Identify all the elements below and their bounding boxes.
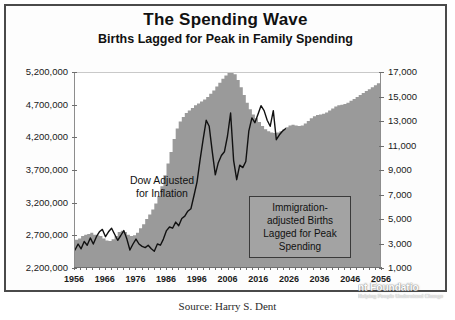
y-axis-left-tick: [72, 105, 77, 106]
x-axis-tick: [258, 267, 259, 270]
x-axis-tick: [277, 267, 278, 270]
y-axis-right-tick-label: 5,000: [388, 213, 436, 224]
x-axis-tick: [338, 267, 339, 270]
y-axis-left-tick-label: 2,700,000: [8, 229, 68, 240]
x-axis-tick: [289, 267, 290, 270]
y-axis-left-tick: [72, 170, 77, 171]
x-axis-tick: [381, 267, 382, 270]
x-axis-tick: [185, 267, 186, 270]
y-axis-left-tick: [72, 137, 77, 138]
y-axis-right-tick: [379, 121, 384, 122]
x-axis-tick: [86, 267, 87, 270]
x-axis-tick: [221, 267, 222, 270]
x-axis-tick: [172, 267, 173, 270]
y-axis-right-tick: [379, 195, 384, 196]
x-axis-tick: [240, 267, 241, 270]
x-axis-tick: [246, 267, 247, 270]
y-axis-right-tick-label: 7,000: [388, 189, 436, 200]
x-axis-tick: [92, 267, 93, 270]
y-axis-right-tick-label: 3,000: [388, 238, 436, 249]
x-axis-tick: [215, 267, 216, 270]
x-axis-tick: [99, 267, 100, 270]
x-axis-tick: [160, 267, 161, 270]
x-axis-tick: [166, 267, 167, 270]
x-axis-tick: [356, 267, 357, 270]
source-caption: Source: Harry S. Dent: [0, 300, 455, 312]
annotation-line: Immigration-: [252, 201, 348, 214]
annotation-line: adjusted Births: [252, 214, 348, 227]
chart-figure: The Spending Wave Births Lagged for Peak…: [4, 4, 447, 292]
x-axis-tick: [369, 267, 370, 270]
y-axis-right-tick-label: 9,000: [388, 164, 436, 175]
x-axis-tick: [80, 267, 81, 270]
y-axis-left-tick-label: 2,200,000: [8, 262, 68, 273]
x-axis-tick: [313, 267, 314, 270]
y-axis-right-tick: [379, 170, 384, 171]
x-axis-tick: [129, 267, 130, 270]
x-axis-tick: [123, 267, 124, 270]
x-axis-tick: [154, 267, 155, 270]
x-axis-tick: [375, 267, 376, 270]
x-axis-tick: [264, 267, 265, 270]
x-axis-tick: [142, 267, 143, 270]
y-axis-left-tick: [72, 235, 77, 236]
chart-title-block: The Spending Wave Births Lagged for Peak…: [6, 10, 445, 47]
y-axis-right-tick-label: 15,000: [388, 91, 436, 102]
chart-subtitle: Births Lagged for Peak in Family Spendin…: [6, 31, 445, 47]
watermark-tagline: Helping People Understand Change: [358, 293, 455, 300]
dow-annotation: Dow Adjustedfor Inflation: [116, 174, 208, 200]
x-axis-tick: [191, 267, 192, 270]
x-axis-tick: [197, 267, 198, 270]
x-axis-tick: [178, 267, 179, 270]
x-axis-tick: [203, 267, 204, 270]
y-axis-right-tick-label: 17,000: [388, 66, 436, 77]
annotation-line: Dow Adjusted: [116, 174, 208, 187]
x-axis-tick: [209, 267, 210, 270]
x-axis-tick: [234, 267, 235, 270]
x-axis-tick: [148, 267, 149, 270]
y-axis-left-tick-label: 4,700,000: [8, 99, 68, 110]
births-annotation: Immigration-adjusted BirthsLagged for Pe…: [249, 196, 351, 258]
x-axis-tick: [111, 267, 112, 270]
x-axis-tick: [105, 267, 106, 270]
annotation-line: Spending: [252, 240, 348, 253]
y-axis-right-tick-label: 13,000: [388, 115, 436, 126]
x-axis-tick: [307, 267, 308, 270]
x-axis-tick-label: 2056: [361, 274, 401, 284]
x-axis-tick: [350, 267, 351, 270]
x-axis-tick: [252, 267, 253, 270]
x-axis-tick: [332, 267, 333, 270]
x-axis-tick: [326, 267, 327, 270]
y-axis-right-tick-label: 1,000: [388, 262, 436, 273]
x-axis-tick: [283, 267, 284, 270]
y-axis-left-tick-label: 5,200,000: [8, 66, 68, 77]
y-axis-right-tick: [379, 146, 384, 147]
x-axis-tick: [363, 267, 364, 270]
x-axis-tick: [117, 267, 118, 270]
y-axis-left-tick-label: 3,700,000: [8, 164, 68, 175]
page-title: The Spending Wave: [6, 10, 445, 30]
annotation-line: for Inflation: [116, 187, 208, 200]
y-axis-right-tick: [379, 219, 384, 220]
annotation-line: Lagged for Peak: [252, 227, 348, 240]
x-axis-tick: [301, 267, 302, 270]
y-axis-right-tick: [379, 72, 384, 73]
x-axis-tick: [270, 267, 271, 270]
y-axis-left-tick-label: 4,200,000: [8, 131, 68, 142]
x-axis-tick: [135, 267, 136, 270]
y-axis-left-tick: [72, 203, 77, 204]
y-axis-left-tick: [72, 72, 77, 73]
y-axis-right-tick: [379, 244, 384, 245]
x-axis-tick: [344, 267, 345, 270]
x-axis-tick: [228, 267, 229, 270]
y-axis-left-tick-label: 3,200,000: [8, 197, 68, 208]
y-axis-right-tick: [379, 97, 384, 98]
x-axis-tick: [295, 267, 296, 270]
x-axis-tick: [74, 267, 75, 270]
x-axis-tick: [320, 267, 321, 270]
y-axis-right-tick-label: 11,000: [388, 140, 436, 151]
